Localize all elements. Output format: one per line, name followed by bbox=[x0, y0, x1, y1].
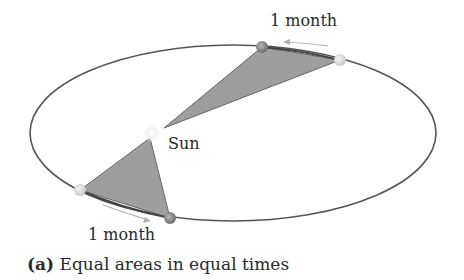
planet-top-left-icon bbox=[256, 41, 268, 53]
planet-bottom-right-icon bbox=[164, 212, 176, 224]
arrow-top-icon bbox=[283, 39, 328, 46]
top-interval-label: 1 month bbox=[270, 11, 337, 30]
sun-label: Sun bbox=[168, 134, 200, 153]
swept-area-far bbox=[164, 47, 340, 128]
planet-top-right-icon bbox=[334, 54, 346, 66]
planet-bottom-left-icon bbox=[74, 184, 86, 196]
orbit-diagram bbox=[0, 0, 464, 280]
caption-tag: (a) bbox=[27, 254, 54, 274]
figure-caption: (a) Equal areas in equal times bbox=[27, 254, 289, 274]
bottom-interval-label: 1 month bbox=[88, 225, 155, 244]
caption-text: Equal areas in equal times bbox=[54, 254, 289, 274]
sun-icon bbox=[143, 124, 161, 142]
